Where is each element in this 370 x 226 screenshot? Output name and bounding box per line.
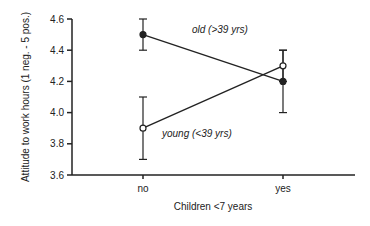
- y-axis-title: Attitude to work hours (1 neg. - 5 pos.): [20, 12, 31, 182]
- data-point-young: [280, 63, 286, 69]
- series-markers: [140, 32, 286, 132]
- chart: 3.63.84.04.24.44.6noyes Children <7 year…: [0, 0, 370, 226]
- y-tick-label: 4.2: [50, 76, 64, 87]
- data-point-young: [140, 125, 146, 131]
- x-tick-label: no: [137, 183, 149, 194]
- y-tick-label: 3.6: [50, 170, 64, 181]
- y-tick-label: 4.4: [50, 45, 64, 56]
- series-line-old: [143, 35, 283, 82]
- series-line-young: [143, 66, 283, 128]
- y-tick-label: 4.6: [50, 14, 64, 25]
- data-point-old: [280, 78, 286, 84]
- series-label-old: old (>39 yrs): [192, 24, 248, 35]
- x-axis-title: Children <7 years: [174, 201, 253, 212]
- y-tick-label: 4.0: [50, 107, 64, 118]
- series-lines: [143, 35, 283, 129]
- data-point-old: [140, 32, 146, 38]
- axes: 3.63.84.04.24.44.6noyes: [50, 14, 355, 195]
- y-tick-label: 3.8: [50, 138, 64, 149]
- x-tick-label: yes: [275, 183, 291, 194]
- series-label-young: young (<39 yrs): [161, 128, 232, 139]
